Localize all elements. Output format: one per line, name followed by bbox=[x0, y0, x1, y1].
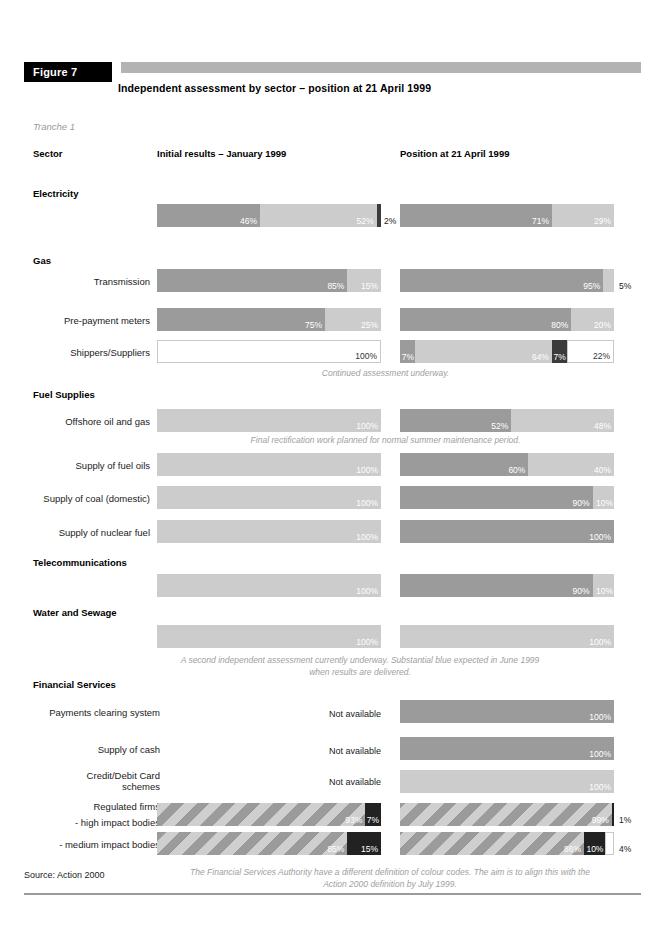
bar-prepayment-initial: 75% 25% bbox=[157, 308, 381, 331]
bar-transmission-initial: 85% 15% bbox=[157, 269, 381, 292]
bar-segment: 46% bbox=[157, 204, 260, 227]
figure-header: Figure 7 bbox=[24, 62, 641, 82]
bar-segment: 100% bbox=[400, 770, 614, 793]
bar-medium-impact-position: 86% 10% 4% bbox=[400, 832, 614, 855]
bar-segment: 22% bbox=[567, 340, 614, 363]
bar-segment: 100% bbox=[400, 625, 614, 648]
bar-segment: 100% bbox=[157, 486, 381, 509]
row-label-medium-impact: - medium impact bodies bbox=[0, 839, 160, 850]
bar-segment: 25% bbox=[325, 308, 381, 331]
bar-segment bbox=[605, 832, 614, 855]
bar-segment: 71% bbox=[400, 204, 552, 227]
bar-high-impact-position: 99% 1% bbox=[400, 803, 614, 826]
bar-high-impact-initial: 93% 7% bbox=[157, 803, 381, 826]
bar-electricity-position: 71% 29% bbox=[400, 204, 614, 227]
bar-segment: 100% bbox=[400, 520, 614, 543]
figure-page: Figure 7 Independent assessment by secto… bbox=[0, 0, 665, 925]
bar-segment: 7% bbox=[552, 340, 567, 363]
row-label-cards: Credit/Debit Card schemes bbox=[0, 770, 160, 792]
bar-water-position: 100% bbox=[400, 625, 614, 648]
bar-segment: 52% bbox=[260, 204, 376, 227]
row-label-cash: Supply of cash bbox=[0, 744, 160, 755]
footer-rule bbox=[24, 893, 641, 895]
bar-segment: 85% bbox=[157, 832, 347, 855]
note-financial: The Financial Services Authority have a … bbox=[150, 866, 630, 890]
bar-segment: 100% bbox=[400, 700, 614, 723]
bar-segment: 15% bbox=[347, 832, 381, 855]
bar-electricity-initial: 46% 52% 2% bbox=[157, 204, 381, 227]
bar-segment: 100% bbox=[157, 453, 381, 476]
bar-segment: 7% bbox=[400, 340, 415, 363]
bar-segment: 10% bbox=[593, 574, 614, 597]
bar-fuel-oils-position: 60% 40% bbox=[400, 453, 614, 476]
column-header-initial: Initial results – January 1999 bbox=[157, 148, 286, 159]
bar-segment: 90% bbox=[400, 574, 593, 597]
row-label-shippers: Shippers/Suppliers bbox=[10, 347, 150, 358]
bar-segment: 20% bbox=[571, 308, 614, 331]
row-label-regulated-firms: Regulated firms bbox=[0, 801, 160, 812]
row-label-fuel-oils: Supply of fuel oils bbox=[10, 460, 150, 471]
not-available-cash: Not available bbox=[157, 746, 381, 756]
bar-segment: 48% bbox=[511, 409, 614, 432]
not-available-payments: Not available bbox=[157, 709, 381, 719]
bar-shippers-initial: 100% bbox=[157, 340, 381, 363]
source-label: Source: Action 2000 bbox=[24, 870, 105, 880]
bar-nuclear-position: 100% bbox=[400, 520, 614, 543]
bar-segment: 100% bbox=[400, 737, 614, 760]
bar-segment: 52% bbox=[400, 409, 511, 432]
row-label-nuclear: Supply of nuclear fuel bbox=[10, 527, 150, 538]
bar-segment: 40% bbox=[528, 453, 614, 476]
bar-segment: 99% bbox=[400, 803, 612, 826]
bar-segment bbox=[377, 204, 381, 227]
bar-segment bbox=[612, 803, 614, 826]
bar-segment: 10% bbox=[593, 486, 614, 509]
bar-segment: 100% bbox=[157, 574, 381, 597]
bar-outside-label: 5% bbox=[619, 281, 631, 291]
row-label-coal: Supply of coal (domestic) bbox=[10, 493, 150, 504]
note-water: A second independent assessment currentl… bbox=[110, 654, 610, 678]
bar-segment: 90% bbox=[400, 486, 593, 509]
section-label-gas: Gas bbox=[33, 255, 51, 266]
bar-segment: 60% bbox=[400, 453, 528, 476]
bar-segment: 100% bbox=[157, 340, 381, 363]
bar-outside-label: 4% bbox=[619, 844, 631, 854]
bar-segment: 86% bbox=[400, 832, 584, 855]
bar-segment: 95% bbox=[400, 269, 603, 292]
bar-fuel-oils-initial: 100% bbox=[157, 453, 381, 476]
bar-cards-position: 100% bbox=[400, 770, 614, 793]
figure-header-bar bbox=[121, 62, 641, 73]
column-header-position: Position at 21 April 1999 bbox=[400, 148, 509, 159]
section-label-electricity: Electricity bbox=[33, 188, 78, 199]
section-label-water: Water and Sewage bbox=[33, 607, 117, 618]
bar-outside-label: 1% bbox=[619, 815, 631, 825]
tranche-label: Tranche 1 bbox=[33, 121, 75, 132]
section-label-financial: Financial Services bbox=[33, 679, 116, 690]
bar-segment: 100% bbox=[157, 409, 381, 432]
bar-segment: 75% bbox=[157, 308, 325, 331]
bar-prepayment-position: 80% 20% bbox=[400, 308, 614, 331]
bar-segment: 85% bbox=[157, 269, 347, 292]
bar-coal-position: 90% 10% bbox=[400, 486, 614, 509]
row-label-offshore: Offshore oil and gas bbox=[10, 416, 150, 427]
row-label-payments: Payments clearing system bbox=[0, 707, 160, 718]
bar-nuclear-initial: 100% bbox=[157, 520, 381, 543]
bar-segment: 15% bbox=[347, 269, 381, 292]
bar-coal-initial: 100% bbox=[157, 486, 381, 509]
bar-outside-label: 2% bbox=[384, 216, 396, 226]
row-label-transmission: Transmission bbox=[10, 276, 150, 287]
bar-segment bbox=[603, 269, 614, 292]
bar-segment: 100% bbox=[157, 520, 381, 543]
bar-segment: 93% bbox=[157, 803, 365, 826]
bar-telecoms-position: 90% 10% bbox=[400, 574, 614, 597]
bar-medium-impact-initial: 85% 15% bbox=[157, 832, 381, 855]
figure-tag: Figure 7 bbox=[24, 62, 112, 82]
bar-cash-position: 100% bbox=[400, 737, 614, 760]
bar-segment: 100% bbox=[157, 625, 381, 648]
bar-telecoms-initial: 100% bbox=[157, 574, 381, 597]
bar-offshore-initial: 100% bbox=[157, 409, 381, 432]
bar-offshore-position: 52% 48% bbox=[400, 409, 614, 432]
bar-shippers-position: 7% 64% 7% 22% bbox=[400, 340, 614, 363]
not-available-cards: Not available bbox=[157, 777, 381, 787]
bar-segment: 80% bbox=[400, 308, 571, 331]
column-header-sector: Sector bbox=[33, 148, 63, 159]
